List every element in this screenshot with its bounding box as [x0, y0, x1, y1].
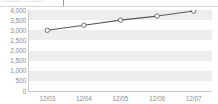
y-tick-label: 2,500 — [0, 37, 26, 44]
y-tick-label: 500 — [0, 77, 26, 84]
chart-screenshot: □□□□□ □□□□□ 4,0003,5003,0002,5002,0001,5… — [0, 0, 218, 104]
data-point-marker — [155, 14, 159, 18]
x-tick-label: 12/03 — [39, 95, 55, 103]
line-chart: 4,0003,5003,0002,5002,0001,5001,0005000 … — [0, 7, 218, 104]
series-layer — [29, 10, 212, 91]
data-point-marker — [45, 28, 49, 32]
data-point-marker — [192, 10, 196, 13]
data-point-marker — [82, 23, 86, 27]
x-tick-label: 12/05 — [113, 95, 129, 103]
y-tick-label: 1,000 — [0, 67, 26, 74]
y-tick-label: 1,500 — [0, 57, 26, 64]
data-point-marker — [118, 18, 122, 22]
y-tick-label: 2,000 — [0, 47, 26, 54]
y-tick-label: 3,000 — [0, 27, 26, 34]
cropped-header-text: □□□□□ □□□□□ — [2, 0, 42, 3]
x-tick-label: 12/04 — [76, 95, 92, 103]
y-tick-label: 0 — [0, 88, 26, 95]
x-tick-label: 12/06 — [149, 95, 165, 103]
y-axis-line — [28, 10, 29, 92]
plot-area — [29, 10, 212, 91]
y-tick-label: 3,500 — [0, 17, 26, 24]
y-tick-label: 4,000 — [0, 7, 26, 14]
x-axis-labels: 12/0312/0412/0512/0612/07 — [29, 95, 212, 104]
x-tick-label: 12/07 — [186, 95, 202, 103]
y-axis-labels: 4,0003,5003,0002,5002,0001,5001,0005000 — [0, 10, 26, 91]
x-axis-line — [28, 91, 212, 92]
